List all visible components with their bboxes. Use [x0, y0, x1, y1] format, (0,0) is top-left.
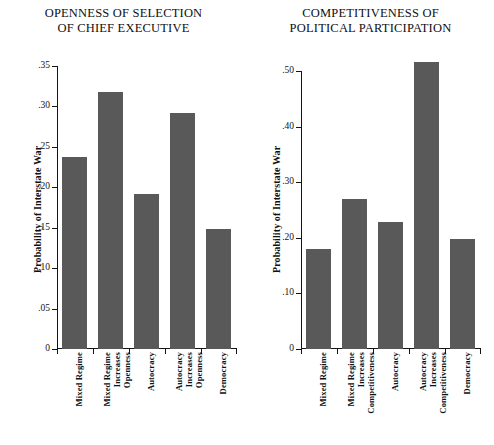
chart-title-line-2: POLITICAL PARTICIPATION	[247, 21, 494, 36]
x-axis-labels-openness: Mixed Regime Mixed Regime Increases Open…	[57, 352, 237, 445]
x-label-line: Competitiveness	[366, 352, 376, 445]
x-label-line: Autocracy	[174, 352, 184, 445]
plot-area-openness: 0 .05 .10 .15 .20 .25 .30 .35	[57, 66, 237, 349]
bar-democracy	[206, 229, 231, 349]
y-tick-label-3: .30	[282, 175, 294, 188]
bar-autocracy-increases	[170, 113, 195, 349]
x-label-line: Increases	[428, 352, 438, 445]
y-tick-label-5: .50	[282, 64, 294, 77]
y-tick-label-1: .05	[38, 302, 50, 315]
x-label-line: Autocracy	[390, 352, 400, 445]
plot-area-competitiveness: 0 .10 .20 .30 .40 .50	[301, 71, 481, 349]
y-tick-label-7: .35	[38, 59, 50, 72]
x-label-line: Increases	[112, 352, 122, 445]
x-label-democracy: Democracy	[462, 352, 476, 445]
bar-mixed-regime	[62, 157, 87, 349]
bar-autocracy	[378, 222, 403, 349]
x-label-line: Mixed Regime	[318, 352, 328, 445]
chart-title-line-2: OF CHIEF EXECUTIVE	[0, 21, 247, 36]
x-label-democracy: Democracy	[218, 352, 232, 445]
y-tick-label-0: 0	[45, 342, 50, 355]
x-label-line: Mixed Regime	[346, 352, 356, 445]
y-axis-label-openness: Probability of Interstate War	[32, 146, 43, 273]
bar-autocracy	[134, 194, 159, 349]
x-label-mixed-regime: Mixed Regime	[74, 352, 88, 445]
bar-mixed-regime-increases	[98, 92, 123, 349]
x-label-line: Increases	[356, 352, 366, 445]
x-label-mixed-regime-increases-openness: Mixed Regime Increases Openness	[102, 352, 116, 445]
bar-series-competitiveness	[301, 71, 481, 349]
chart-title-line-1: OPENNESS OF SELECTION	[0, 6, 247, 21]
x-label-line: Autocracy	[418, 352, 428, 445]
x-label-autocracy-increases-openness: Autocracy Increases Openness	[174, 352, 188, 445]
y-tick-label-1: .10	[282, 286, 294, 299]
x-label-line: Democracy	[218, 352, 228, 445]
x-label-line: Competitiveness	[438, 352, 448, 445]
bar-mixed-regime	[306, 249, 331, 349]
bar-autocracy-increases	[414, 62, 439, 349]
x-label-autocracy: Autocracy	[390, 352, 404, 445]
x-label-line: Increases	[184, 352, 194, 445]
bar-mixed-regime-increases	[342, 199, 367, 349]
chart-panel-openness: OPENNESS OF SELECTION OF CHIEF EXECUTIVE…	[0, 0, 247, 445]
bar-democracy	[450, 239, 475, 349]
y-tick-label-5: .25	[38, 140, 50, 153]
y-tick-label-4: .40	[282, 120, 294, 133]
x-label-line: Openness	[194, 352, 204, 445]
x-label-line: Autocracy	[146, 352, 156, 445]
x-label-mixed-regime-increases-competitiveness: Mixed Regime Increases Competitiveness	[346, 352, 360, 445]
chart-title-competitiveness: COMPETITIVENESS OF POLITICAL PARTICIPATI…	[247, 6, 494, 36]
y-tick-label-0: 0	[289, 342, 294, 355]
x-label-line: Mixed Regime	[102, 352, 112, 445]
x-label-autocracy-increases-competitiveness: Autocracy Increases Competitiveness	[418, 352, 432, 445]
chart-title-line-1: COMPETITIVENESS OF	[247, 6, 494, 21]
chart-title-openness: OPENNESS OF SELECTION OF CHIEF EXECUTIVE	[0, 6, 247, 36]
x-label-mixed-regime: Mixed Regime	[318, 352, 332, 445]
y-axis-label-competitiveness: Probability of Interstate War	[271, 146, 282, 273]
y-tick-label-6: .30	[38, 99, 50, 112]
x-axis-labels-competitiveness: Mixed Regime Mixed Regime Increases Comp…	[301, 352, 481, 445]
bar-series-openness	[57, 66, 237, 349]
y-tick-label-2: .10	[38, 261, 50, 274]
y-tick-label-4: .20	[38, 180, 50, 193]
x-label-line: Mixed Regime	[74, 352, 84, 445]
x-label-line: Openness	[122, 352, 132, 445]
y-tick-label-3: .15	[38, 221, 50, 234]
y-tick-label-2: .20	[282, 231, 294, 244]
figure-canvas: OPENNESS OF SELECTION OF CHIEF EXECUTIVE…	[0, 0, 494, 445]
x-label-autocracy: Autocracy	[146, 352, 160, 445]
x-label-line: Democracy	[462, 352, 472, 445]
